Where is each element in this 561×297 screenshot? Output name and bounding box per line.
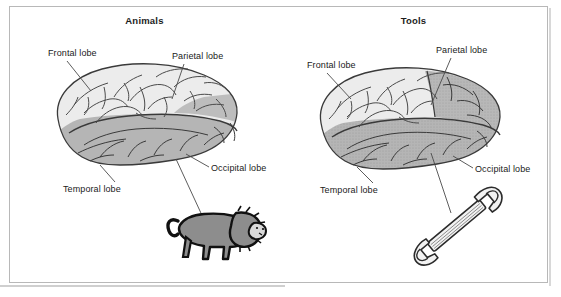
panel-animals: Animals: [10, 7, 279, 284]
lion-illustration: [162, 203, 270, 265]
leader-frontal-animals: [67, 61, 91, 91]
leader-occipital-tools: [453, 156, 473, 168]
leader-frontal-tools: [327, 73, 351, 99]
leader-parietal-tools: [431, 58, 451, 105]
frame-shadow-bottom: [0, 285, 285, 287]
leader-occipital-animals: [186, 154, 209, 167]
frame-shadow-right: [549, 8, 551, 286]
wrench-svg: [401, 189, 513, 263]
figure-screenshot: Animals: [0, 0, 561, 297]
panel-tools: Tools: [279, 7, 548, 284]
figure-frame: Animals: [9, 6, 548, 283]
wrench-illustration: [401, 189, 513, 263]
lion-svg: [162, 203, 270, 265]
leader-parietal-animals: [172, 64, 184, 99]
leader-temporal-tools: [357, 167, 373, 183]
leader-temporal-animals: [100, 165, 115, 182]
